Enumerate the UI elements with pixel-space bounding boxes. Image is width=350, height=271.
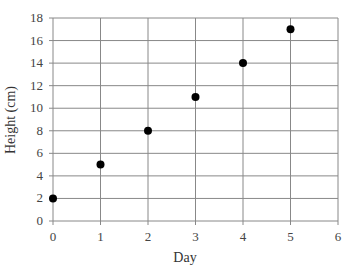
- y-tick: 18: [30, 10, 43, 25]
- x-tick: 6: [335, 229, 342, 244]
- x-tick: 4: [240, 229, 247, 244]
- data-point: [287, 25, 295, 33]
- data-point: [239, 59, 247, 67]
- y-tick: 2: [37, 190, 44, 205]
- data-point: [49, 194, 57, 202]
- y-tick: 12: [30, 78, 43, 93]
- x-tick: 2: [145, 229, 152, 244]
- x-tick-labels: 0123456: [50, 229, 342, 244]
- x-tick: 5: [287, 229, 294, 244]
- data-point: [192, 93, 200, 101]
- grid-lines: [49, 18, 338, 225]
- y-axis-label: Height (cm): [3, 86, 19, 154]
- y-tick: 14: [30, 55, 44, 70]
- data-point: [97, 161, 105, 169]
- data-point: [144, 127, 152, 135]
- y-tick: 6: [37, 145, 44, 160]
- scatter-chart: 024681012141618 0123456 Day Height (cm): [0, 0, 350, 271]
- y-tick-labels: 024681012141618: [30, 10, 44, 228]
- x-tick: 3: [192, 229, 199, 244]
- y-tick: 10: [30, 100, 43, 115]
- x-axis-label: Day: [173, 250, 196, 265]
- x-tick: 1: [97, 229, 104, 244]
- y-tick: 0: [37, 213, 44, 228]
- y-tick: 16: [30, 33, 44, 48]
- y-tick: 8: [37, 123, 44, 138]
- x-tick: 0: [50, 229, 57, 244]
- y-tick: 4: [37, 168, 44, 183]
